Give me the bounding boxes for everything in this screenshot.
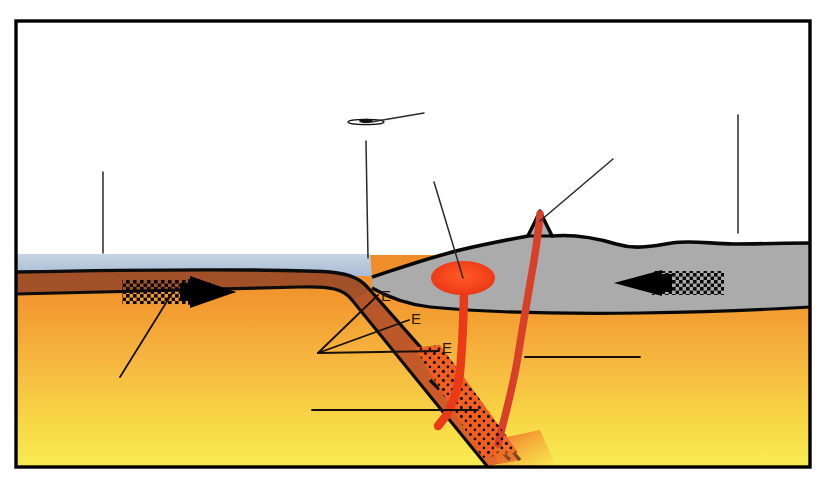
figure-root: E E E [0,0,826,485]
slab-marker-e-2: E [411,310,421,327]
slab-marker-e-3: E [442,339,452,356]
arrow-left-shaft-solid [180,283,196,301]
subduction-zone-diagram: E E E [0,0,826,485]
slab-marker-e-1: E [381,287,391,304]
arrow-right-shaft-solid [656,274,672,292]
